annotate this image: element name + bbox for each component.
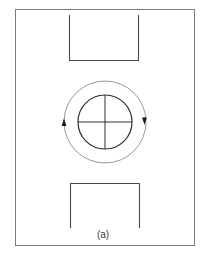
diagram-canvas: (a) — [0, 0, 201, 255]
figure-caption: (a) — [97, 229, 109, 240]
arrow-up-icon — [62, 119, 67, 127]
bottom-bracket — [71, 184, 140, 229]
top-bracket — [70, 15, 139, 61]
